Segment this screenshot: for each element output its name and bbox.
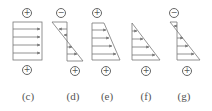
stress-distribution-figure: + + − + + + + − + (c) (d) (e) (f) (g): [0, 0, 212, 111]
panel-g-label: (g): [178, 90, 191, 102]
panel-e-bottom-sign-icon: +: [101, 66, 111, 76]
panel-e-label: (e): [101, 90, 113, 102]
panel-d-top-sign-icon: −: [56, 8, 66, 18]
panel-c-top-sign-icon: +: [22, 8, 32, 18]
panel-f-diagram: [132, 23, 160, 60]
panel-e-top-sign-icon: +: [92, 8, 102, 18]
panel-g-top-sign-icon: −: [169, 8, 179, 18]
panel-g-diagram: [170, 22, 200, 60]
panel-e-diagram: [92, 23, 120, 60]
panel-f-label: (f): [141, 90, 152, 102]
panel-g-bottom-sign-icon: +: [182, 66, 192, 76]
panel-c-label: (c): [22, 90, 34, 102]
panel-d-label: (d): [67, 90, 80, 102]
panel-c-diagram: [13, 22, 42, 60]
panel-d-diagram: [52, 22, 83, 61]
panel-f-bottom-sign-icon: +: [141, 66, 151, 76]
panel-d-bottom-sign-icon: +: [70, 66, 80, 76]
panel-c-bottom-sign-icon: +: [22, 65, 32, 75]
